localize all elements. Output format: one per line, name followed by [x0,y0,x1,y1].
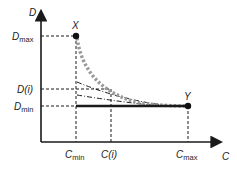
tick-di: D(i) [17,84,33,95]
tick-dmax: Dmax [12,31,34,44]
point-x-label: X [71,20,79,31]
guide-lines [41,36,188,142]
tick-cmin: Cmin [65,149,84,162]
point-y [185,103,191,109]
x-axis-label: C [222,151,230,162]
tradeoff-diagram: D C X Y Dmax D(i) Dmin Cmin C(i) Cmax [0,0,237,169]
tradeoff-curve [77,38,186,106]
y-axis-label: D [29,7,36,18]
tick-cmax: Cmax [176,149,198,162]
point-x [73,33,79,39]
point-y-label: Y [184,91,192,102]
dash-dot-curve-1 [77,82,170,106]
tick-ci: C(i) [101,149,117,160]
tick-dmin: Dmin [14,101,33,114]
